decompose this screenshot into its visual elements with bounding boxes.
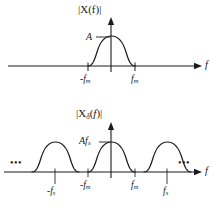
tick-pos-fm-subscript: m [134,183,139,190]
sampled-title-X: X [78,107,86,119]
magnitude-axis-arrowhead [108,122,114,130]
baseband-tick-label-pos-fm: fm [131,75,138,85]
baseband-plot-title: |X(f)| [78,4,101,15]
sampled-tick-label-neg-fm: -fm [80,181,90,191]
ellipsis-right: ••• [178,158,190,168]
baseband-tick-label-neg-fm: -fm [80,75,90,85]
amplitude-subscript: s [88,139,91,146]
sampled-tick-label-pos-fm: fm [131,181,138,191]
sampled-frequency-axis-label: f [205,166,208,177]
baseband-amplitude-label: A [86,32,92,42]
tick-neg-fm-subscript: m [86,77,91,84]
tick-neg-fm-subscript: m [86,183,91,190]
frequency-axis-arrowhead [194,169,202,175]
baseband-frequency-axis-label: f [205,60,208,71]
replica-curve-minus-fs [32,142,79,172]
sampled-amplitude-label: Afs [79,136,91,147]
magnitude-axis-arrowhead [108,17,114,25]
sampled-tick-label-pos-fs: fs [163,187,168,197]
ellipsis-left: ••• [10,158,22,168]
sampled-plot-title: |Xδ(f)| [76,108,102,120]
sampled-spectrum-graphic [0,104,215,208]
tick-pos-fm-subscript: m [134,77,139,84]
sampled-tick-label-neg-fs: -fs [47,187,55,197]
baseband-spectrum-graphic [0,0,215,104]
signal-spectrum-figure: |X(f)| A -fm fm f [0,0,215,208]
sampled-spectrum-plot: |Xδ(f)| Afs -fs -fm fm fs ••• ••• f [0,104,215,208]
sampled-title-suffix: | [100,107,102,119]
frequency-axis-arrowhead [194,63,202,69]
baseband-spectrum-plot: |X(f)| A -fm fm f [0,0,215,104]
tick-neg-fs-subscript: s [53,189,56,196]
tick-pos-fs-subscript: s [166,189,169,196]
